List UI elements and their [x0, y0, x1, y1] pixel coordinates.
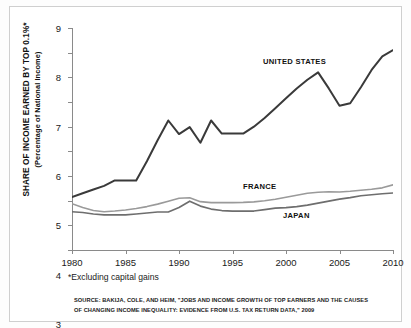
source-citation: SOURCE: BAKIJA, COLE, AND HEIM, "JOBS AN… [74, 296, 409, 315]
source-line-1: SOURCE: BAKIJA, COLE, AND HEIM, "JOBS AN… [74, 296, 409, 306]
chart-frame: SHARE OF INCOME EARNED BY TOP 0.1%* (Per… [9, 6, 402, 322]
x-tick-label: 1990 [168, 257, 189, 268]
y-tick-label: 6 [56, 171, 61, 182]
x-tick [340, 250, 341, 254]
y-axis-title-line1: SHARE OF INCOME EARNED BY TOP 0.1%* [22, 15, 33, 205]
x-tick [126, 250, 127, 254]
y-tick-label: 3 [56, 319, 61, 328]
plot-area: 0123456789 1980198519901995200020052010 [72, 28, 393, 250]
y-axis-title-line2: (Percentage of National Income) [32, 15, 43, 205]
x-tick [72, 250, 73, 254]
y-tick-label: 8 [56, 72, 61, 83]
y-tick-label: 7 [56, 121, 61, 132]
y-tick-label: 9 [56, 23, 61, 34]
series-lines [72, 28, 393, 250]
y-axis-title: SHARE OF INCOME EARNED BY TOP 0.1%* (Per… [22, 15, 43, 205]
x-tick-label: 2005 [329, 257, 350, 268]
x-tick-label: 2010 [382, 257, 403, 268]
chart-page: SHARE OF INCOME EARNED BY TOP 0.1%* (Per… [0, 0, 411, 328]
series-line-japan [72, 193, 393, 215]
x-tick-label: 2000 [275, 257, 296, 268]
x-tick [393, 250, 394, 254]
series-label-united-states: UNITED STATES [263, 57, 326, 66]
x-tick [286, 250, 287, 254]
x-tick [179, 250, 180, 254]
series-label-japan: JAPAN [283, 211, 310, 220]
source-line-2: OF CHANGING INCOME INEQUALITY: EVIDENCE … [74, 306, 409, 316]
x-tick-label: 1995 [222, 257, 243, 268]
footnote: *Excluding capital gains [68, 272, 159, 282]
series-label-france: FRANCE [243, 182, 276, 191]
x-tick-label: 1985 [115, 257, 136, 268]
x-tick [233, 250, 234, 254]
y-tick-label: 4 [56, 269, 61, 280]
y-tick-label: 5 [56, 220, 61, 231]
x-tick-label: 1980 [61, 257, 82, 268]
series-line-united-states [72, 50, 393, 197]
